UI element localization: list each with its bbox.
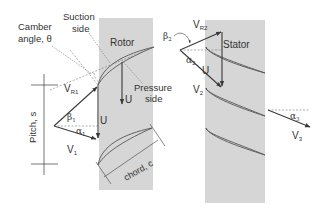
camber-angle-label-line2: angle, θ: [18, 33, 52, 44]
pitch-label: Pitch, s: [27, 112, 38, 143]
beta-2-label: β2: [163, 31, 172, 42]
beta-1-label: β1: [67, 112, 76, 123]
suction-side-label-line2: side: [72, 23, 89, 34]
exit-u-label: U: [202, 65, 209, 76]
velocity-triangle-diagram: Rotor Stator Camber angle, θ Suction sid…: [0, 0, 328, 210]
camber-angle-label-line1: Camber: [18, 21, 52, 32]
rotor-u-label: U: [125, 94, 132, 105]
stator-label: Stator: [223, 39, 250, 50]
v-3-vector: [268, 110, 310, 127]
inlet-u-label: U: [100, 115, 107, 126]
alpha-1-label: α1: [76, 126, 86, 137]
v-1-vector: [54, 126, 96, 139]
beta-2-arc: [174, 33, 190, 43]
pressure-side-label-line2: side: [145, 93, 162, 104]
suction-side-label-line1: Suction: [63, 11, 95, 22]
v-1-label: V1: [67, 144, 78, 156]
pressure-side-label-line1: Pressure: [134, 82, 172, 93]
v-r1-label: VR1: [64, 83, 79, 95]
camber-angle-leader: [52, 46, 92, 74]
rotor-label: Rotor: [110, 37, 135, 48]
alpha-3-label: α3: [290, 111, 300, 122]
alpha-2-label: α2: [186, 55, 196, 66]
v-2-label: V2: [193, 84, 204, 96]
v-3-label: V3: [292, 130, 303, 142]
